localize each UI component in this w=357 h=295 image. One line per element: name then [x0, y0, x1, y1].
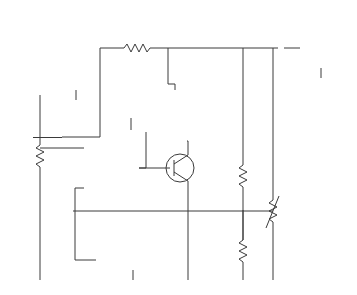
circuit-final	[0, 0, 357, 295]
series-regulator-diagram	[0, 0, 357, 295]
